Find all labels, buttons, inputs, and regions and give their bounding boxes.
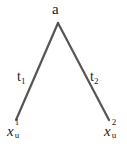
edge-label-t2: t2 <box>90 70 98 86</box>
leaf-superscript: 2 <box>112 118 117 127</box>
root-node-label: a <box>52 2 59 17</box>
leaf-base: x <box>104 123 111 139</box>
edge-label-sub: 1 <box>21 76 26 86</box>
leaf-superscript: 1 <box>15 118 20 127</box>
leaf-node-label-2: x2u <box>104 124 119 140</box>
leaf-base: x <box>7 123 14 139</box>
leaf-node-label-1: x1u <box>7 124 22 140</box>
edge-label-t1: t1 <box>17 70 25 86</box>
leaf-subscript: u <box>112 131 117 140</box>
edge-t2 <box>58 23 109 120</box>
leaf-subscript: u <box>15 131 20 140</box>
tree-diagram: a t1 t2 x1u x2u <box>0 0 127 146</box>
edge-label-sub: 2 <box>94 76 99 86</box>
